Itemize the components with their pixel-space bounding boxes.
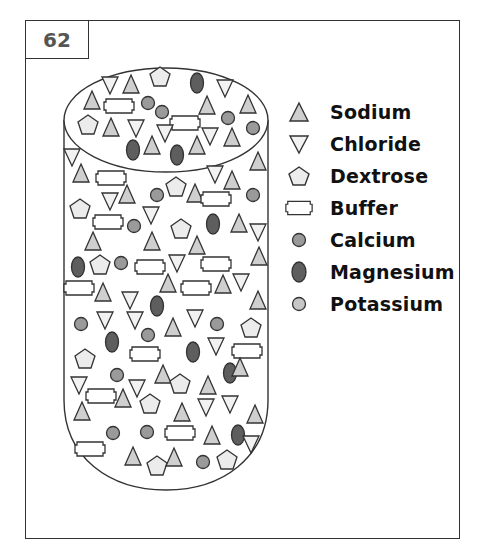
chloride-particle — [198, 399, 214, 416]
oval-dark-icon — [284, 258, 314, 286]
calcium-particle — [75, 318, 88, 331]
sodium-particle — [85, 232, 101, 250]
calcium-particle — [211, 318, 224, 331]
legend-item-potassium: Potassium — [284, 288, 464, 320]
legend-label: Calcium — [330, 229, 416, 251]
sodium-particle — [231, 214, 247, 232]
legend-item-chloride: Chloride — [284, 128, 464, 160]
calcium-particle — [142, 97, 155, 110]
sodium-particle — [73, 164, 89, 182]
dextrose-particle — [166, 177, 186, 196]
magnesium-particle — [232, 425, 245, 445]
calcium-particle — [247, 189, 260, 202]
legend-item-dextrose: Dextrose — [284, 160, 464, 192]
sodium-particle — [247, 405, 263, 423]
buffer-particle — [201, 192, 231, 206]
calcium-particle — [247, 122, 260, 135]
dextrose-particle — [241, 318, 261, 337]
chloride-particle — [187, 310, 203, 327]
legend-item-calcium: Calcium — [284, 224, 464, 256]
buffer-particle — [93, 215, 123, 229]
dextrose-particle — [140, 394, 160, 413]
buffer-particle — [75, 442, 105, 456]
figure-number: 62 — [25, 20, 89, 59]
chloride-particle — [71, 377, 87, 394]
triangle-up-icon — [284, 98, 314, 126]
sodium-particle — [174, 403, 190, 421]
sodium-particle — [74, 402, 90, 420]
chloride-particle — [102, 193, 118, 210]
sodium-particle — [165, 318, 181, 336]
chloride-particle — [127, 312, 143, 329]
chloride-particle — [143, 207, 159, 224]
legend: Sodium Chloride Dextrose Buffer Calcium … — [284, 96, 464, 320]
legend-item-magnesium: Magnesium — [284, 256, 464, 288]
calcium-particle — [111, 369, 124, 382]
chloride-particle — [64, 149, 80, 166]
legend-item-sodium: Sodium — [284, 96, 464, 128]
sodium-particle — [189, 236, 205, 254]
legend-label: Buffer — [330, 197, 398, 219]
magnesium-particle — [171, 145, 184, 165]
legend-label: Magnesium — [330, 261, 455, 283]
triangle-down-icon — [284, 130, 314, 158]
dextrose-particle — [70, 199, 90, 218]
dextrose-particle — [147, 456, 167, 475]
sodium-particle — [166, 448, 182, 466]
legend-label: Potassium — [330, 293, 443, 315]
buffer-particle — [201, 257, 231, 271]
dextrose-particle — [171, 219, 191, 238]
calcium-particle — [141, 426, 154, 439]
magnesium-particle — [106, 332, 119, 352]
chloride-particle — [97, 312, 113, 329]
legend-label: Dextrose — [330, 165, 428, 187]
chloride-particle — [222, 396, 238, 413]
chloride-particle — [208, 338, 224, 355]
sodium-particle — [115, 389, 131, 407]
magnesium-particle — [151, 296, 164, 316]
calcium-particle — [151, 189, 164, 202]
legend-item-buffer: Buffer — [284, 192, 464, 224]
buffer-particle — [170, 116, 200, 130]
legend-label: Chloride — [330, 133, 421, 155]
buffer-particle — [64, 281, 94, 295]
magnesium-particle — [127, 140, 140, 160]
calcium-particle — [222, 112, 235, 125]
magnesium-particle — [187, 342, 200, 362]
chloride-particle — [250, 224, 266, 241]
legend-label: Sodium — [330, 101, 411, 123]
buffer-particle — [232, 344, 262, 358]
buffer-particle — [135, 260, 165, 274]
dextrose-particle — [217, 450, 237, 469]
notched-rectangle-icon — [284, 194, 314, 222]
buffer-particle — [165, 426, 195, 440]
chloride-particle — [129, 380, 145, 397]
sodium-particle — [95, 283, 111, 301]
sodium-particle — [215, 275, 231, 293]
magnesium-particle — [72, 257, 85, 277]
buffer-particle — [96, 171, 126, 185]
sodium-particle — [144, 232, 160, 250]
sodium-particle — [250, 291, 266, 309]
sodium-particle — [125, 447, 141, 465]
calcium-particle — [107, 427, 120, 440]
sodium-particle — [224, 171, 240, 189]
sodium-particle — [251, 247, 267, 265]
sodium-particle — [204, 426, 220, 444]
calcium-particle — [115, 257, 128, 270]
calcium-particle — [142, 329, 155, 342]
buffer-particle — [181, 281, 211, 295]
chloride-particle — [169, 255, 185, 272]
pentagon-icon — [284, 162, 314, 190]
buffer-particle — [130, 347, 160, 361]
circle-light-icon — [284, 290, 314, 318]
sodium-particle — [200, 376, 216, 394]
buffer-particle — [104, 99, 134, 113]
sodium-particle — [119, 185, 135, 203]
dextrose-particle — [90, 255, 110, 274]
dextrose-particle — [75, 349, 95, 368]
magnesium-particle — [191, 73, 204, 93]
magnesium-particle — [207, 214, 220, 234]
chloride-particle — [233, 274, 249, 291]
buffer-particle — [86, 389, 116, 403]
